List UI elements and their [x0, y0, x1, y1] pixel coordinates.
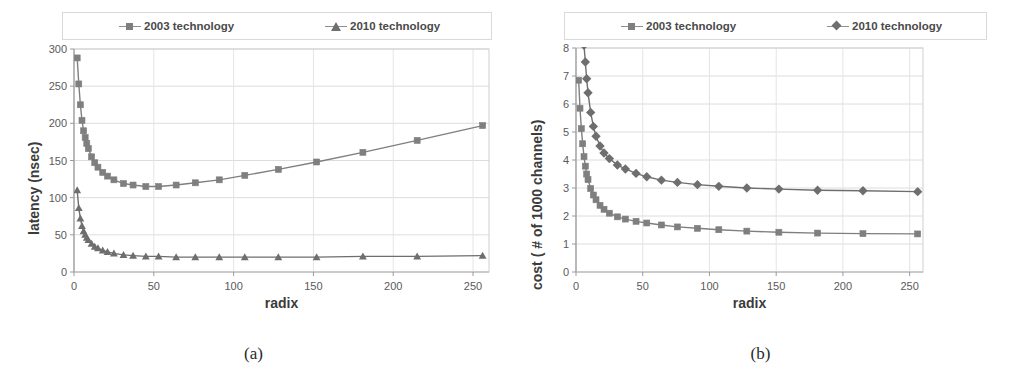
x-axis-title-a: radix	[74, 295, 489, 311]
svg-text:6: 6	[563, 98, 569, 110]
chart-svg-a: 050100150200250300050100150200250	[0, 0, 507, 340]
y-axis-title-a: latency (nsec)	[26, 142, 42, 235]
svg-text:2: 2	[563, 210, 569, 222]
svg-text:200: 200	[834, 280, 852, 292]
svg-text:7: 7	[563, 70, 569, 82]
chart-svg-b: 012345678050100150200250	[507, 0, 1014, 340]
svg-text:150: 150	[767, 280, 785, 292]
plot-area-b: 012345678050100150200250	[507, 0, 1014, 391]
svg-text:1: 1	[563, 238, 569, 250]
caption-a: (a)	[0, 344, 507, 364]
svg-text:250: 250	[464, 280, 482, 292]
chart-panel-b: 2003 technology 2010 technology 01234567…	[507, 0, 1014, 391]
svg-text:8: 8	[563, 42, 569, 54]
chart-panel-a: 2003 technology 2010 technology 05010015…	[0, 0, 507, 391]
svg-text:100: 100	[224, 280, 242, 292]
svg-text:250: 250	[49, 80, 67, 92]
svg-text:100: 100	[49, 192, 67, 204]
svg-text:50: 50	[148, 280, 160, 292]
svg-text:150: 150	[304, 280, 322, 292]
svg-text:3: 3	[563, 182, 569, 194]
svg-text:50: 50	[55, 229, 67, 241]
svg-text:200: 200	[384, 280, 402, 292]
svg-text:0: 0	[61, 266, 67, 278]
svg-text:300: 300	[49, 43, 67, 55]
svg-text:50: 50	[637, 280, 649, 292]
svg-text:100: 100	[700, 280, 718, 292]
svg-text:5: 5	[563, 126, 569, 138]
svg-text:150: 150	[49, 155, 67, 167]
x-axis-title-b: radix	[576, 295, 923, 311]
svg-text:0: 0	[563, 266, 569, 278]
svg-text:200: 200	[49, 117, 67, 129]
y-axis-title-b: cost ( # of 1000 channels)	[529, 120, 545, 290]
svg-text:4: 4	[563, 154, 569, 166]
caption-b: (b)	[507, 344, 1014, 364]
svg-text:0: 0	[573, 280, 579, 292]
svg-text:250: 250	[900, 280, 918, 292]
svg-text:0: 0	[71, 280, 77, 292]
plot-area-a: 050100150200250300050100150200250	[0, 0, 507, 391]
figure-sheet: 2003 technology 2010 technology 05010015…	[0, 0, 1014, 391]
